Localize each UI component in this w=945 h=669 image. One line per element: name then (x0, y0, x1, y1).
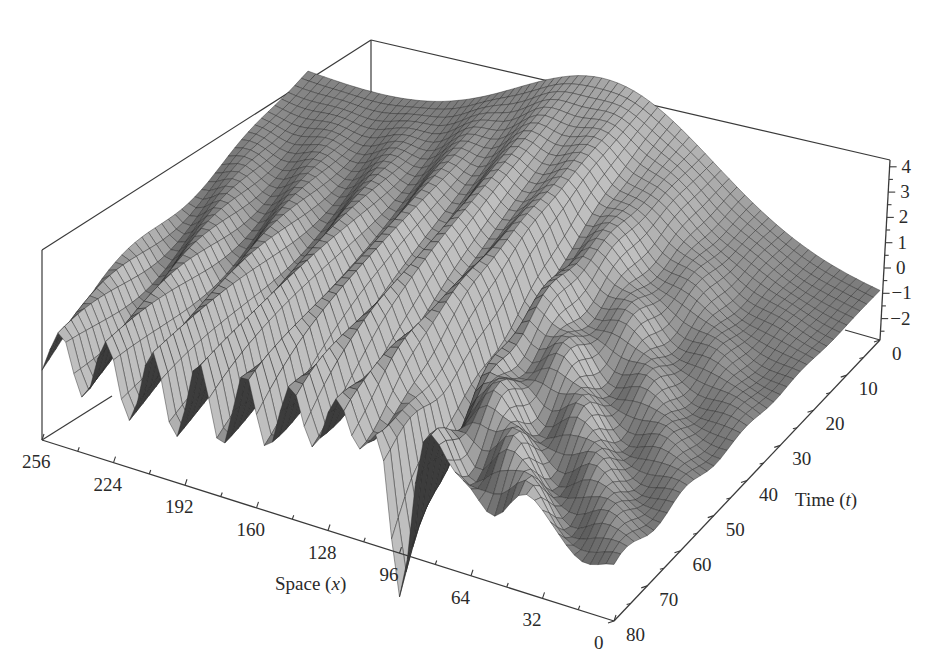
space-tick-label: 160 (237, 519, 266, 540)
space-tick-label: 96 (380, 564, 399, 585)
surface-plot: 2562241921601289664320 Space (x) 0102030… (0, 0, 945, 669)
space-minor-tick (435, 560, 437, 564)
time-tick (608, 621, 614, 623)
time-tick-label: 60 (693, 554, 712, 575)
space-minor-tick (149, 470, 151, 474)
time-tick-label: 10 (859, 378, 878, 399)
box-edge-inner-floor-right (845, 330, 880, 340)
wireframe-surface (42, 71, 880, 597)
z-tick-label: −2 (890, 308, 910, 329)
z-tick-label: 1 (897, 232, 907, 253)
space-tick-label: 32 (523, 609, 542, 630)
space-minor-tick (221, 493, 223, 497)
space-tick (328, 525, 330, 531)
space-tick (185, 479, 187, 485)
z-tick-label: 3 (900, 181, 910, 202)
space-tick (543, 592, 545, 598)
space-tick (114, 457, 116, 463)
z-tick-label: 0 (896, 257, 906, 278)
time-tick-label: 0 (892, 343, 902, 364)
time-axis-title: Time (t) (795, 489, 857, 511)
space-minor-tick (292, 515, 294, 519)
mesh-cell (42, 340, 57, 370)
z-axis: 43210−1−2 (880, 156, 912, 340)
space-tick-label: 224 (94, 474, 123, 495)
time-tick-label: 20 (826, 413, 845, 434)
z-tick-label: 2 (899, 206, 909, 227)
space-tick-label: 64 (451, 587, 471, 608)
space-tick-label: 256 (22, 451, 51, 472)
space-minor-tick (78, 447, 80, 451)
space-minor-tick (578, 606, 580, 610)
time-tick-label: 80 (626, 624, 645, 645)
time-tick-label: 30 (792, 448, 811, 469)
space-minor-tick (364, 538, 366, 542)
z-axis-line (880, 160, 890, 340)
space-tick-label: 128 (308, 542, 337, 563)
space-tick (257, 502, 259, 508)
time-tick-label: 50 (726, 519, 745, 540)
space-tick (471, 570, 473, 576)
space-minor-tick (507, 583, 509, 587)
space-axis-title: Space (x) (275, 573, 346, 595)
time-tick-label: 70 (659, 589, 678, 610)
box-edge-inner-floor-left (42, 396, 112, 440)
space-tick-label: 0 (594, 632, 604, 653)
space-tick-label: 192 (165, 496, 194, 517)
z-tick-label: −1 (892, 282, 912, 303)
time-tick-label: 40 (759, 484, 778, 505)
z-tick-label: 4 (902, 156, 912, 177)
